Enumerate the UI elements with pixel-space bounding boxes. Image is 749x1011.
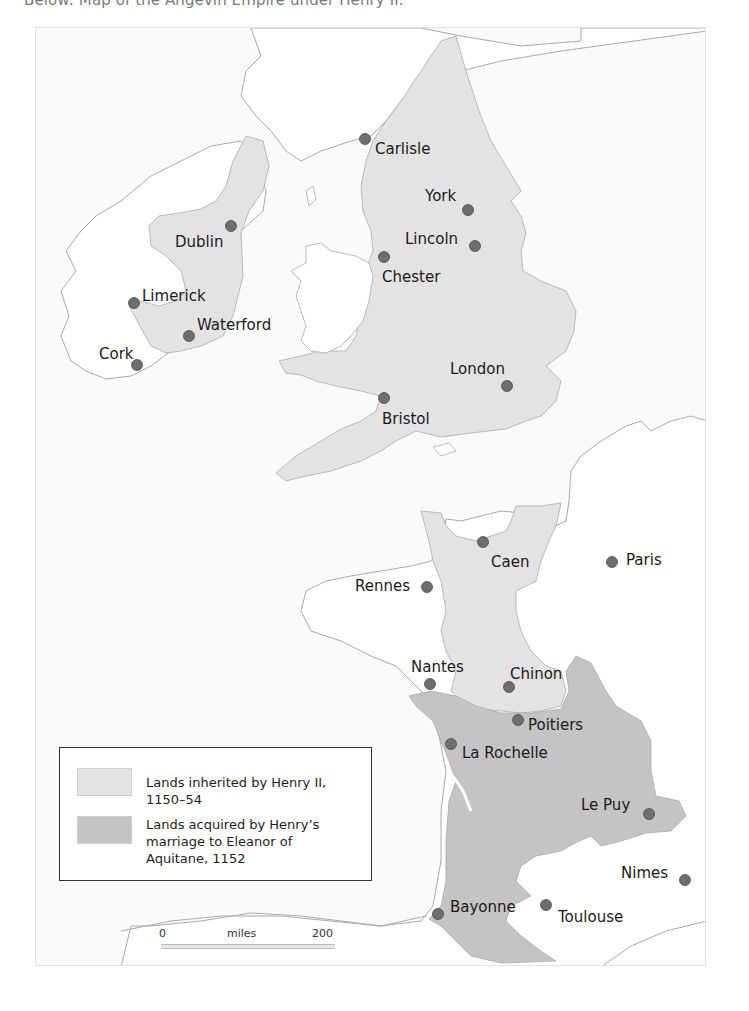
- map-caption: Below: Map of the Angevin Empire under H…: [24, 0, 404, 9]
- city-label: Nantes: [411, 658, 464, 676]
- city-dot-icon: [644, 809, 655, 820]
- city-label: Limerick: [142, 287, 206, 305]
- city-label: Bayonne: [450, 898, 516, 916]
- city-dot-icon: [607, 557, 618, 568]
- scale-unit: miles: [227, 927, 256, 940]
- city-dot-icon: [422, 582, 433, 593]
- region-isle-of-wight: [433, 443, 456, 456]
- legend-label-marriage: Lands acquired by Henry’s marriage to El…: [146, 816, 356, 867]
- legend-label-inherited: Lands inherited by Henry II, 1150–54: [146, 768, 356, 808]
- city-dot-icon: [504, 682, 515, 693]
- city-label: Le Puy: [581, 796, 630, 814]
- legend-item-inherited: Lands inherited by Henry II, 1150–54: [77, 768, 356, 808]
- city-label: Caen: [491, 553, 529, 571]
- city-dot-icon: [129, 298, 140, 309]
- city-label: Paris: [626, 551, 662, 569]
- city-dot-icon: [360, 134, 371, 145]
- city-dot-icon: [446, 739, 457, 750]
- city-label: Lincoln: [405, 230, 458, 248]
- legend-swatch-inherited: [77, 768, 132, 796]
- city-label: Nimes: [621, 864, 668, 882]
- scale-line: [161, 944, 335, 949]
- city-label: Bristol: [382, 410, 430, 428]
- city-dot-icon: [379, 252, 390, 263]
- city-dot-icon: [502, 381, 513, 392]
- city-dot-icon: [226, 221, 237, 232]
- city-dot-icon: [470, 241, 481, 252]
- city-label: London: [450, 360, 505, 378]
- city-dot-icon: [425, 679, 436, 690]
- city-label: Chinon: [510, 665, 562, 683]
- city-label: Toulouse: [557, 908, 623, 926]
- legend-swatch-marriage: [77, 816, 132, 844]
- legend-item-marriage: Lands acquired by Henry’s marriage to El…: [77, 816, 356, 867]
- scale-end: 200: [312, 927, 333, 940]
- city-dot-icon: [478, 537, 489, 548]
- scale-start: 0: [159, 927, 166, 940]
- city-label: Carlisle: [375, 140, 430, 158]
- city-dot-icon: [680, 875, 691, 886]
- region-isle-of-man: [306, 186, 316, 206]
- city-dot-icon: [541, 900, 552, 911]
- city-dot-icon: [184, 331, 195, 342]
- city-label: Cork: [99, 345, 134, 363]
- scale-bar: 0 miles 200: [157, 927, 337, 957]
- city-dot-icon: [513, 715, 524, 726]
- map-legend: Lands inherited by Henry II, 1150–54 Lan…: [59, 747, 372, 881]
- city-label: La Rochelle: [462, 744, 548, 762]
- city-label: York: [424, 187, 457, 205]
- region-france: [121, 416, 706, 966]
- city-label: Chester: [382, 268, 441, 286]
- city-label: Waterford: [197, 316, 271, 334]
- city-label: Poitiers: [528, 716, 583, 734]
- city-dot-icon: [433, 909, 444, 920]
- city-label: Rennes: [355, 577, 410, 595]
- map-frame: CarlisleYorkLincolnChesterDublinLimerick…: [35, 27, 706, 966]
- city-dot-icon: [463, 205, 474, 216]
- city-label: Dublin: [175, 233, 223, 251]
- city-dot-icon: [379, 393, 390, 404]
